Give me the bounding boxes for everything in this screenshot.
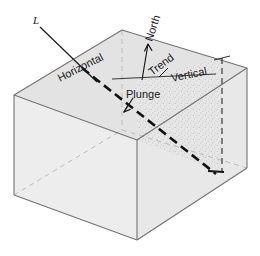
label-north: North <box>142 13 162 42</box>
label-lineation: L <box>32 14 39 26</box>
block-diagram-svg: L Horizontal North Trend Vertical Plunge <box>0 0 260 256</box>
lineation-base-segment <box>208 171 224 172</box>
block-diagram-figure: L Horizontal North Trend Vertical Plunge <box>0 0 260 256</box>
label-plunge: Plunge <box>126 88 160 100</box>
